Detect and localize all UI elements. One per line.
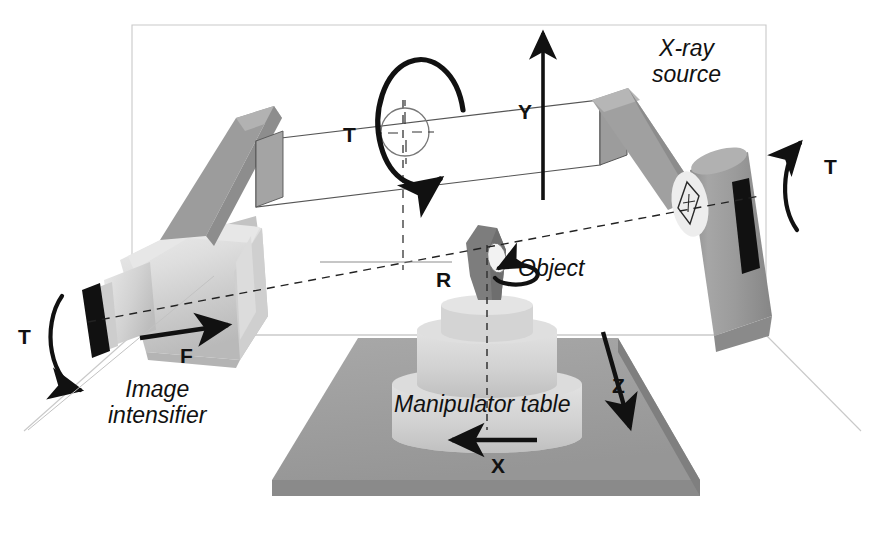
axis-label-f: F <box>180 344 193 368</box>
image-intensifier-label: Image intensifier <box>108 377 206 429</box>
axis-t-left-arc <box>51 296 80 390</box>
c-arm-top-panel <box>256 90 627 207</box>
xray-source-label-line2: source <box>652 62 721 88</box>
image-intensifier-label-line1: Image <box>108 377 206 403</box>
xray-source-label-line1: X-ray <box>652 36 721 62</box>
axis-label-x: X <box>491 454 505 478</box>
xray-source-tube-body <box>690 152 772 336</box>
axis-t-right-arc <box>785 143 800 230</box>
axis-label-t-center: T <box>343 123 356 147</box>
object-label: Object <box>518 256 584 282</box>
xray-source <box>667 142 772 352</box>
c-arm-panel-face <box>256 100 600 207</box>
axis-t-right <box>785 143 800 230</box>
axis-label-t-right: T <box>824 155 837 179</box>
axis-label-r: R <box>436 268 451 292</box>
image-intensifier <box>82 216 268 368</box>
manipulator-table-label: Manipulator table <box>394 392 570 418</box>
axis-label-t-left: T <box>18 325 31 349</box>
axis-label-y: Y <box>518 100 532 124</box>
image-intensifier-label-line2: intensifier <box>108 403 206 429</box>
xray-source-label: X-ray source <box>652 36 721 88</box>
diagram-canvas: X-ray source Image intensifier Object Ma… <box>0 0 881 545</box>
c-arm-panel-left-cap <box>256 131 283 207</box>
base-platform-front <box>272 480 700 496</box>
room-floor-edge-right <box>766 335 861 431</box>
axis-label-z: Z <box>612 374 625 398</box>
